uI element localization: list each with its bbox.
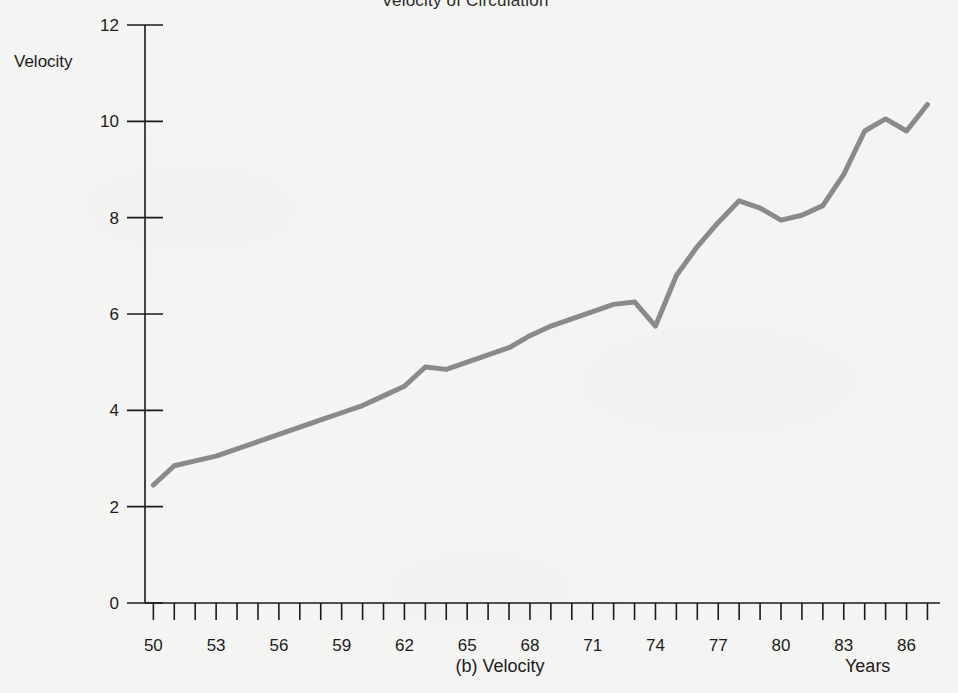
x-tick-label: 62 [395, 636, 414, 655]
x-tick-label: 68 [520, 636, 539, 655]
x-tick-label: 56 [269, 636, 288, 655]
x-tick-label: 77 [709, 636, 728, 655]
data-series-group [153, 104, 927, 485]
chart-page: Velocity of Circulation Velocity 0246810… [0, 0, 958, 693]
x-tick-label: 65 [458, 636, 477, 655]
y-tick-label: 2 [110, 498, 119, 517]
x-tick-label: 50 [144, 636, 163, 655]
x-tick-label: 86 [897, 636, 916, 655]
data-series-line [153, 104, 927, 485]
x-axis-title: Years [845, 656, 890, 677]
x-tick-label: 80 [772, 636, 791, 655]
x-tick-label: 59 [332, 636, 351, 655]
y-tick-label: 6 [110, 305, 119, 324]
y-tick-group: 024681012 [100, 16, 163, 613]
x-tick-label: 74 [646, 636, 665, 655]
y-tick-label: 8 [110, 209, 119, 228]
x-tick-label: 83 [834, 636, 853, 655]
y-tick-label: 4 [110, 401, 119, 420]
y-tick-label: 10 [100, 112, 119, 131]
y-tick-label: 0 [110, 594, 119, 613]
line-chart-plot: 024681012 50535659626568717477808386 [0, 0, 958, 693]
x-tick-label: 71 [583, 636, 602, 655]
x-tick-label: 53 [207, 636, 226, 655]
x-tick-group: 50535659626568717477808386 [144, 603, 928, 655]
y-tick-label: 12 [100, 16, 119, 35]
figure-caption: (b) Velocity [0, 656, 958, 677]
axes-group [145, 25, 940, 603]
